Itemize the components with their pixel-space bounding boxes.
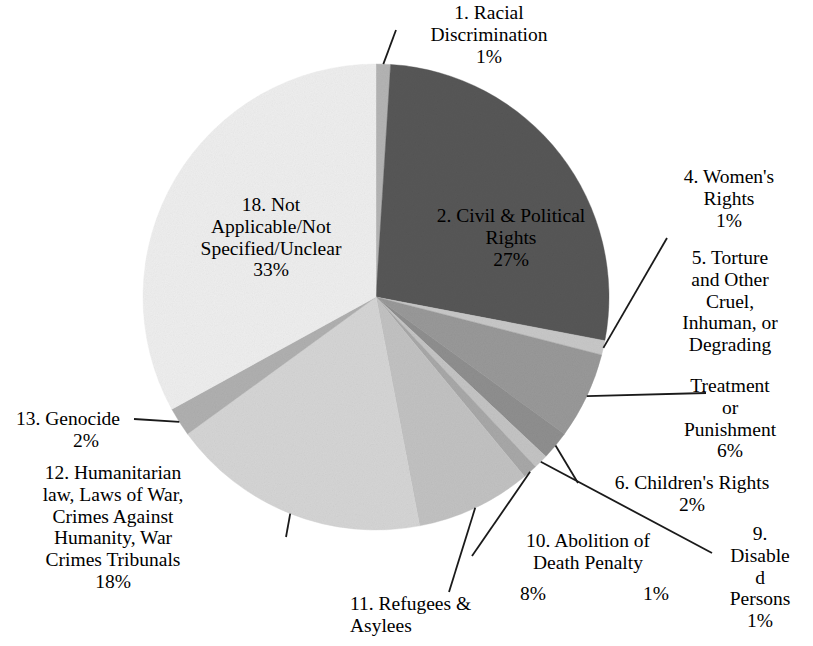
slice-label-not-applicable: 18. Not Applicable/Not Specified/Unclear… (160, 194, 382, 281)
pie-chart-page: 1. Racial Discrimination 1% 2. Civil & P… (0, 0, 813, 646)
slice-value-refugees-asylees: 8% (513, 583, 553, 605)
leader-line-12 (286, 514, 290, 537)
slice-label-childrens-rights: 6. Children's Rights 2% (580, 472, 804, 516)
slice-label-civil-political-rights: 2. Civil & Political Rights 27% (398, 205, 624, 270)
slice-label-torture-line1: 5. Torture and Other Cruel, Inhuman, or … (655, 247, 805, 356)
slice-label-torture-line2: Treatment or Punishment 6% (655, 375, 805, 462)
pie-slice-2 (376, 64, 609, 340)
slice-label-genocide: 13. Genocide (16, 408, 156, 430)
slice-label-abolition-death-penalty: 10. Abolition of Death Penalty (508, 530, 668, 574)
slice-label-disabled-persons: 9. Disable d Persons 1% (710, 523, 810, 632)
leader-line-11 (449, 508, 475, 592)
slice-label-racial-discrimination: 1. Racial Discrimination 1% (400, 2, 578, 67)
slice-label-womens-rights: 4. Women's Rights 1% (654, 166, 804, 231)
slice-value-abolition-death-penalty: 1% (636, 583, 676, 605)
leader-line-6 (556, 446, 578, 483)
pie-slices-group (143, 64, 609, 530)
slice-value-genocide: 2% (16, 430, 156, 452)
slice-label-humanitarian-law: 12. Humanitarian law, Laws of War, Crime… (4, 462, 222, 593)
leader-line-1 (383, 30, 396, 64)
